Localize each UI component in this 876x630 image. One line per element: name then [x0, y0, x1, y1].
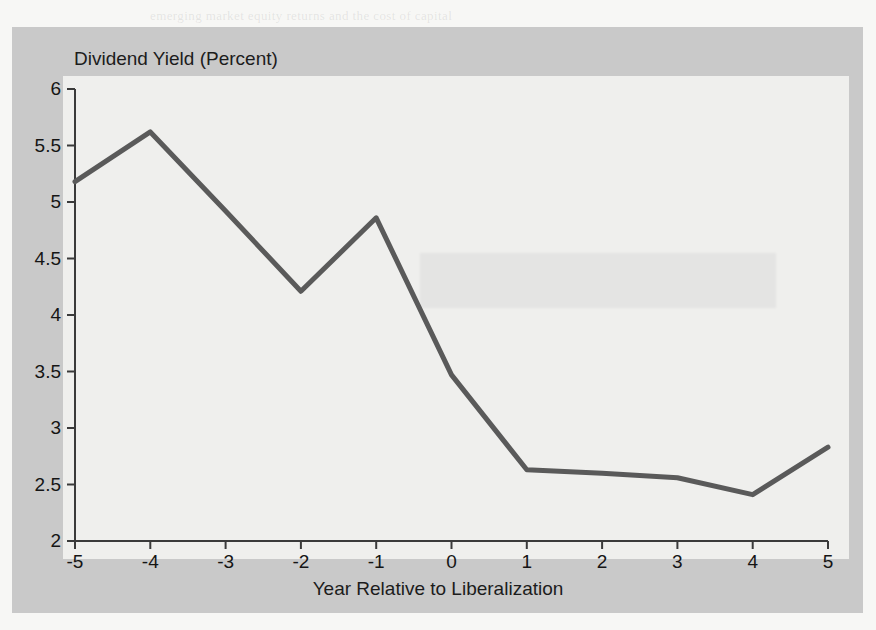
x-axis-label: Year Relative to Liberalization: [0, 578, 876, 600]
x-tick-label: 5: [823, 551, 834, 573]
x-tick-label: -2: [292, 551, 309, 573]
y-tick-label: 2: [0, 530, 61, 552]
y-tick-label: 5.5: [0, 135, 61, 157]
x-tick-label: 3: [672, 551, 683, 573]
x-tick-label: 0: [446, 551, 457, 573]
x-tick-label: -1: [368, 551, 385, 573]
y-tick-label: 3.5: [0, 361, 61, 383]
plot-title: Dividend Yield (Percent): [74, 48, 278, 70]
axes-group: [75, 89, 828, 541]
x-tick-label: -4: [142, 551, 159, 573]
x-tick-label: -3: [217, 551, 234, 573]
y-tick-label: 2.5: [0, 474, 61, 496]
figure-container: emerging market equity returns and the c…: [0, 0, 876, 630]
x-tick-label: 2: [597, 551, 608, 573]
tick-marks-group: [67, 89, 828, 549]
x-tick-label: -5: [67, 551, 84, 573]
dividend-yield-line: [75, 132, 828, 495]
x-tick-label: 1: [522, 551, 533, 573]
y-tick-label: 5: [0, 191, 61, 213]
y-tick-label: 4: [0, 304, 61, 326]
y-tick-label: 3: [0, 417, 61, 439]
y-tick-label: 6: [0, 78, 61, 100]
line-chart: [0, 0, 876, 630]
y-tick-label: 4.5: [0, 248, 61, 270]
x-tick-label: 4: [747, 551, 758, 573]
